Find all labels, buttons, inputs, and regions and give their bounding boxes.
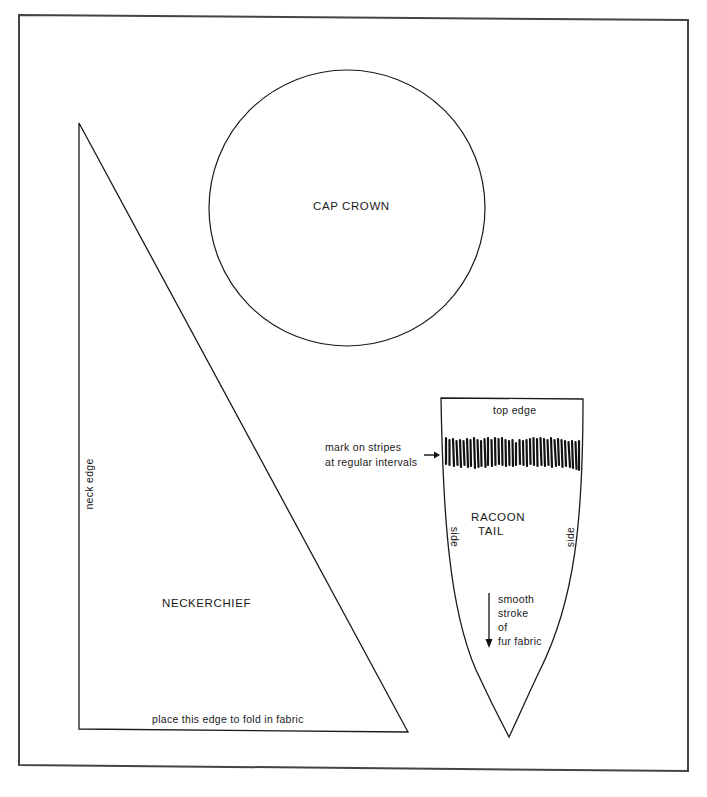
stripe-note-line1: mark on stripes [325, 440, 417, 455]
racoon-tail-label-line2: TAIL [471, 524, 511, 538]
stroke-note: smooth stroke of fur fabric [498, 592, 542, 648]
neckerchief-triangle [79, 123, 408, 732]
racoon-tail-label: RACOON TAIL [471, 510, 511, 538]
racoon-tail-label-line1: RACOON [471, 510, 511, 524]
stripe-marks [446, 438, 579, 470]
side-left-label: side [449, 525, 461, 549]
stroke-note-line2: stroke [498, 606, 542, 620]
stroke-note-line4: fur fabric [498, 634, 542, 648]
stripe-note: mark on stripes at regular intervals [325, 440, 417, 470]
pattern-sheet: CAP CROWN NECKERCHIEF place this edge to… [0, 0, 707, 797]
cap-crown-label: CAP CROWN [313, 200, 390, 212]
stroke-direction-arrow-icon [486, 593, 493, 648]
neckerchief-label: NECKERCHIEF [162, 597, 251, 609]
neck-edge-label: neck edge [83, 456, 95, 512]
side-right-label: side [564, 525, 576, 549]
stripe-arrow-icon [424, 452, 440, 459]
sheet-border [19, 15, 688, 771]
stroke-note-line1: smooth [498, 592, 542, 606]
stripe-note-line2: at regular intervals [325, 455, 417, 470]
fold-edge-label: place this edge to fold in fabric [152, 713, 304, 725]
stroke-note-line3: of [498, 620, 542, 634]
top-edge-label: top edge [493, 404, 536, 416]
